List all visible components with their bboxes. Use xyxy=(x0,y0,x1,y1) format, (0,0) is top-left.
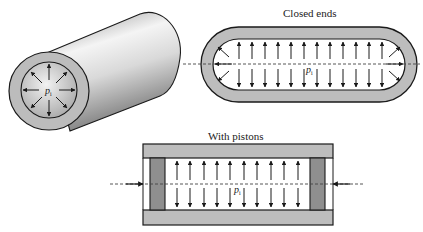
pressure-vessel-diagram: pi Closed ends pi xyxy=(0,0,423,232)
top-wall xyxy=(143,144,333,158)
closed-ends-title: Closed ends xyxy=(283,7,336,19)
closed-ends-figure: Closed ends pi xyxy=(183,7,420,102)
pistons-pressure-label: pi xyxy=(233,184,241,196)
bottom-wall xyxy=(143,210,333,225)
with-pistons-title: With pistons xyxy=(208,130,263,142)
cylinder-3d: pi xyxy=(9,12,180,131)
with-pistons-figure: With pistons pi xyxy=(110,130,365,225)
